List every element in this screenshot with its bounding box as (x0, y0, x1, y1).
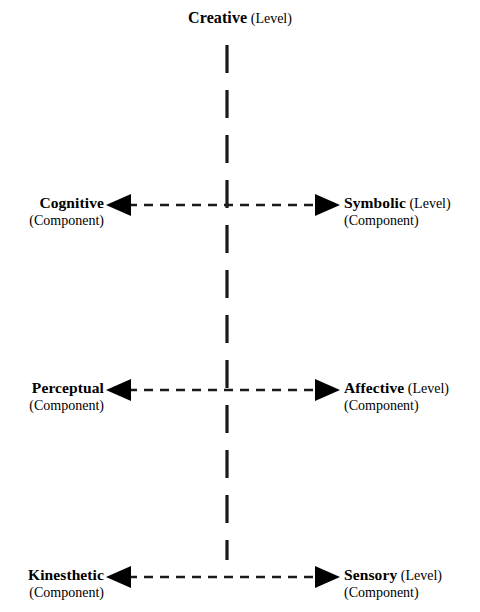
node-sensory-term: Sensory (344, 566, 397, 583)
node-sensory-sub: (Component) (344, 585, 480, 601)
node-cognitive-term: Cognitive (39, 194, 104, 211)
node-creative: Creative (Level) (0, 9, 480, 27)
row3-right-arrowhead-icon (315, 566, 340, 588)
row3-left-arrowhead-icon (106, 566, 131, 588)
node-symbolic-sub: (Component) (344, 213, 480, 229)
node-affective-qualifier: (Level) (408, 381, 449, 396)
node-creative-level: (Level) (251, 11, 292, 26)
node-symbolic-term: Symbolic (344, 194, 406, 211)
node-symbolic-qualifier: (Level) (409, 196, 450, 211)
node-perceptual-term: Perceptual (32, 379, 104, 396)
row2-right-arrowhead-icon (315, 379, 340, 401)
node-affective: Affective (Level) (Component) (344, 379, 480, 414)
node-affective-sub: (Component) (344, 398, 480, 414)
row1-left-arrowhead-icon (106, 194, 131, 216)
node-kinesthetic-term: Kinesthetic (28, 566, 104, 583)
diagram-canvas: Creative (Level) Cognitive (Component) S… (0, 0, 480, 612)
node-kinesthetic: Kinesthetic (Component) (0, 566, 104, 601)
node-kinesthetic-sub: (Component) (0, 585, 104, 601)
node-perceptual: Perceptual (Component) (0, 379, 104, 414)
node-cognitive: Cognitive (Component) (0, 194, 104, 229)
node-cognitive-sub: (Component) (0, 213, 104, 229)
row1-right-arrowhead-icon (315, 194, 340, 216)
row2-left-arrowhead-icon (106, 379, 131, 401)
node-perceptual-sub: (Component) (0, 398, 104, 414)
node-sensory-qualifier: (Level) (401, 568, 442, 583)
node-affective-term: Affective (344, 379, 404, 396)
node-creative-term: Creative (188, 9, 247, 26)
node-sensory: Sensory (Level) (Component) (344, 566, 480, 601)
node-symbolic: Symbolic (Level) (Component) (344, 194, 480, 229)
diagram-connectors (0, 0, 480, 612)
